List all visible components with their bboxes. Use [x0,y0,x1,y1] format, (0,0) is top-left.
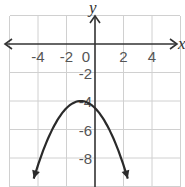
x-tick-label: -2 [60,48,73,65]
x-axis-label: x [177,34,185,53]
y-axis-label: y [87,0,97,17]
x-tick-label: 0 [82,48,90,65]
y-tick-label: -6 [79,122,92,139]
y-tick-label: -2 [79,65,92,82]
x-tick-label: 4 [148,48,156,65]
x-tick-label: 2 [119,48,127,65]
y-tick-label: -8 [79,150,92,167]
x-tick-label: -4 [31,48,44,65]
parabola-chart: -4-2024-2-4-6-8 x y [0,0,185,187]
